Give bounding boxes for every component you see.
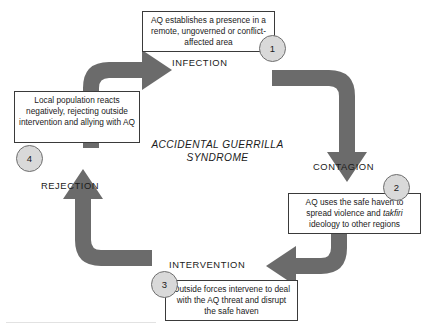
scan-artifact-line: [6, 322, 156, 323]
step-circle-4[interactable]: 4: [16, 145, 43, 172]
stage-box-rejection[interactable]: Local population reacts negatively, reje…: [14, 91, 140, 143]
step-circle-2[interactable]: 2: [383, 174, 410, 201]
diagram-center-title-line2: SYNDROME: [135, 151, 300, 164]
accidental-guerrilla-syndrome-diagram: AQ establishes a presence in a remote, u…: [0, 0, 430, 331]
stage-box-infection-text: AQ establishes a presence in a remote, u…: [151, 15, 266, 47]
step-circle-4-number: 4: [27, 153, 32, 164]
stage-label-contagion: CONTAGION: [313, 161, 374, 172]
stage-box-contagion-text-italic: takfiri: [383, 208, 403, 218]
stage-label-intervention: INTERVENTION: [169, 259, 245, 270]
step-circle-1[interactable]: 1: [259, 35, 286, 62]
arrow-contagion-to-intervention: [266, 228, 347, 286]
stage-label-rejection: REJECTION: [41, 180, 99, 191]
stage-box-intervention[interactable]: Outside forces intervene to deal with th…: [165, 280, 298, 321]
diagram-center-title: ACCIDENTAL GUERRILLA SYNDROME: [135, 138, 300, 164]
step-circle-2-number: 2: [394, 182, 399, 193]
stage-box-infection[interactable]: AQ establishes a presence in a remote, u…: [142, 11, 275, 52]
step-circle-3-number: 3: [162, 279, 167, 290]
stage-box-rejection-text: Local population reacts negatively, reje…: [19, 95, 135, 127]
diagram-center-title-line1: ACCIDENTAL GUERRILLA: [135, 138, 300, 151]
step-circle-3[interactable]: 3: [151, 271, 178, 298]
step-circle-1-number: 1: [270, 43, 275, 54]
stage-label-infection: INFECTION: [172, 57, 227, 68]
stage-box-contagion-text-suffix: ideology to other regions: [309, 219, 400, 229]
stage-box-intervention-text: Outside forces intervene to deal with th…: [173, 284, 290, 316]
